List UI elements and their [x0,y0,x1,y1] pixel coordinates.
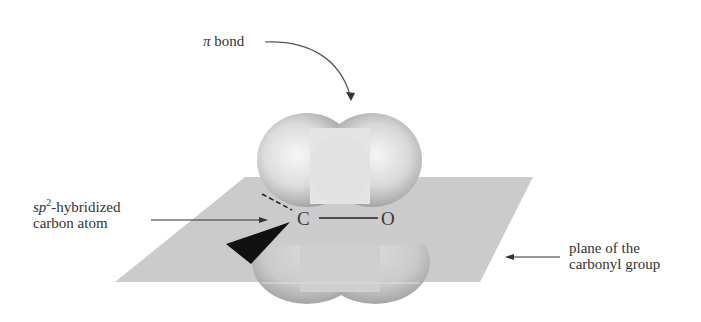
plane-arrowhead-icon [505,254,514,260]
sp2-carbon-label: sp2-hybridized carbon atom [33,195,120,231]
carbon-atom-symbol: C [297,208,310,229]
pi-orbital-upper-lobe [257,113,422,207]
pi-bond-arrow [265,42,350,95]
pi-bond-label: π bond [203,33,244,49]
sp2-carbon-label-line1: sp2-hybridized [33,195,120,215]
plane-label-line2: carbonyl group [569,256,660,272]
plane-label-line1: plane of the [569,240,660,256]
plane-label: plane of the carbonyl group [569,240,660,272]
pi-symbol: π [203,33,211,49]
sp2-carbon-label-line2: carbon atom [33,215,120,231]
pi-bond-arrowhead-icon [346,92,355,101]
carbonyl-pi-bond-diagram: C O [0,0,701,322]
oxygen-atom-symbol: O [381,208,395,229]
